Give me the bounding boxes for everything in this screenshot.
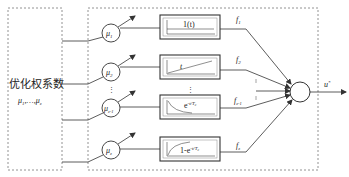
block-rise: 1-e-t/Tc [160, 137, 220, 161]
circle-to-block-lines [120, 28, 160, 149]
output-labels: f1 f2 fz-1 fz [234, 15, 242, 151]
ellipsis: ⋮ [187, 86, 194, 94]
weight-node-1: μ1 [102, 16, 135, 42]
block-decay: e-t/Tc [160, 95, 220, 119]
weight-node-z-1: μz-1 [102, 91, 135, 117]
svg-text:f1: f1 [236, 15, 241, 25]
output-label: u* [324, 80, 331, 89]
svg-text:fz: fz [236, 141, 240, 151]
optimizer-title: 优化权系数 [9, 77, 64, 91]
summer-inputs [220, 29, 292, 152]
optimizer-weights: μ1,…,μz [17, 96, 42, 106]
weight-nodes: μ1 μ2 ⋮ μz-1 μz [102, 16, 135, 159]
svg-text:fz-1: fz-1 [234, 96, 242, 106]
control-diagram: 优化权系数 μ1,…,μz μ1 μ2 ⋮ μz-1 μz [0, 0, 349, 177]
adjust-arrow-icon [118, 133, 135, 144]
ellipsis: ⋮ [108, 86, 115, 94]
adjust-arrow-icon [118, 91, 135, 102]
summing-junction [290, 82, 310, 102]
weight-node-z: μz [102, 133, 135, 159]
function-blocks: 1(t) t ⋮ e-t/Tc 1-e-t/Tc [160, 15, 220, 161]
svg-text:1(t): 1(t) [183, 20, 195, 29]
svg-text:f2: f2 [236, 55, 241, 65]
weight-node-2: μ2 [102, 55, 135, 81]
adjust-arrow-icon [118, 55, 135, 66]
weight-connections [62, 37, 103, 162]
adjust-arrow-icon [118, 16, 135, 27]
block-ramp: t [160, 55, 220, 79]
block-step: 1(t) [160, 15, 220, 39]
